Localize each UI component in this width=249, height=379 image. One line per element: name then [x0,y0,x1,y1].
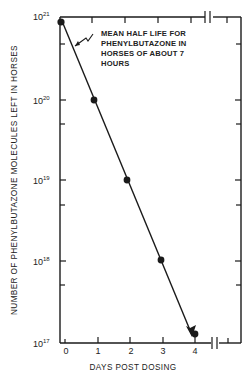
axis-break-bottom [212,337,217,349]
x-tick-label-4: 4 [192,346,197,356]
x-tick-labels: 0 1 2 3 4 [63,346,197,356]
y-tick-label-17: 1017 [33,338,50,349]
axis-break-top [205,11,210,23]
annotation-line-4: HOURS [101,59,129,68]
x-tick-label-3: 3 [160,346,165,356]
y-tick-label-20: 1020 [33,95,50,106]
x-tick-label-1: 1 [95,346,100,356]
annotation-line-2: PHENYLBUTAZONE IN [101,39,187,48]
annotation-arrowhead-icon [75,41,80,46]
x-tick-label-0: 0 [63,346,68,356]
y-tick-label-18: 1018 [33,256,50,267]
x-tick-label-2: 2 [128,346,133,356]
annotation-line-3: HORSES OF ABOUT 7 [101,49,184,58]
data-point-day-3 [158,257,165,264]
x-axis-title: DAYS POST DOSING [89,363,176,372]
annotation-line-1: MEAN HALF LIFE FOR [101,29,186,38]
half-life-chart: 1021 1020 1019 1018 1017 0 1 2 3 4 DAYS … [0,0,249,379]
data-point-day-2 [124,177,131,184]
data-point-day-0 [57,18,64,25]
y-tick-label-19: 1019 [33,175,50,186]
plot-frame [60,17,241,343]
half-life-annotation: MEAN HALF LIFE FOR PHENYLBUTAZONE IN HOR… [75,29,187,68]
x-ticks [65,17,228,343]
y-axis-title: NUMBER OF PHENYLBUTAZONE MOLECULES LEFT … [10,45,19,315]
y-tick-label-21: 1021 [33,11,50,22]
y-tick-labels: 1021 1020 1019 1018 1017 [33,11,50,349]
data-point-day-1 [91,97,98,104]
data-point-day-4 [192,331,199,338]
